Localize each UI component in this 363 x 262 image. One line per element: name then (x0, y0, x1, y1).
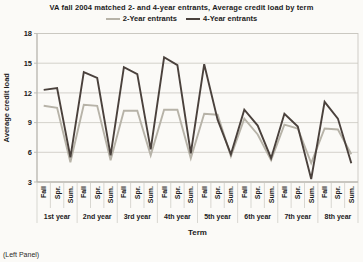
x-tick-label: Fall (80, 186, 87, 198)
y-axis-title: Average credit load (2, 73, 11, 143)
year-group-label: 5th year (204, 213, 231, 221)
year-group-label: 4th year (164, 213, 191, 221)
x-tick-label: Fall (281, 186, 288, 198)
x-tick-label: Fall (120, 186, 127, 198)
y-tick-label: 6 (28, 148, 32, 157)
left-panel-caption: (Left Panel) (3, 251, 39, 258)
x-tick-label: Sum. (308, 186, 315, 203)
x-tick-label: Sum. (147, 186, 154, 203)
year-group-label: 3rd year (124, 213, 152, 221)
year-group-label: 2nd year (83, 213, 112, 221)
y-tick-label: 12 (24, 89, 32, 98)
x-tick-label: Sum. (348, 186, 355, 203)
year-group-label: 7th year (284, 213, 311, 221)
y-tick-label: 15 (24, 59, 32, 68)
year-group-label: 6th year (244, 213, 271, 221)
x-tick-label: Spr. (174, 186, 182, 199)
y-tick-label: 3 (28, 178, 32, 187)
line-chart: 369121518FallSpr.Sum.FallSpr.Sum.FallSpr… (0, 0, 363, 262)
x-tick-label: Fall (201, 186, 208, 198)
x-tick-label: Sum. (107, 186, 114, 203)
x-tick-label: Sum. (227, 186, 234, 203)
year-group-label: 8th year (325, 213, 352, 221)
x-tick-label: Spr. (294, 186, 302, 199)
chart-panel: VA fall 2004 matched 2- and 4-year entra… (0, 0, 363, 262)
x-tick-label: Fall (161, 186, 168, 198)
x-tick-label: Spr. (134, 186, 142, 199)
x-tick-label: Spr. (334, 186, 342, 199)
x-tick-label: Fall (241, 186, 248, 198)
x-axis-title: Term (188, 228, 207, 237)
y-tick-label: 18 (24, 29, 32, 38)
x-tick-label: Spr. (254, 186, 262, 199)
x-tick-label: Fall (321, 186, 328, 198)
x-tick-label: Sum. (268, 186, 275, 203)
year-group-label: 1st year (44, 213, 71, 221)
x-tick-label: Sum. (187, 186, 194, 203)
x-tick-label: Sum. (67, 186, 74, 203)
x-tick-label: Fall (40, 186, 47, 198)
x-tick-label: Spr. (94, 186, 102, 199)
series-line-4-year-entrants (44, 57, 352, 179)
x-tick-label: Spr. (214, 186, 222, 199)
y-tick-label: 9 (28, 118, 32, 127)
x-tick-label: Spr. (54, 186, 62, 199)
